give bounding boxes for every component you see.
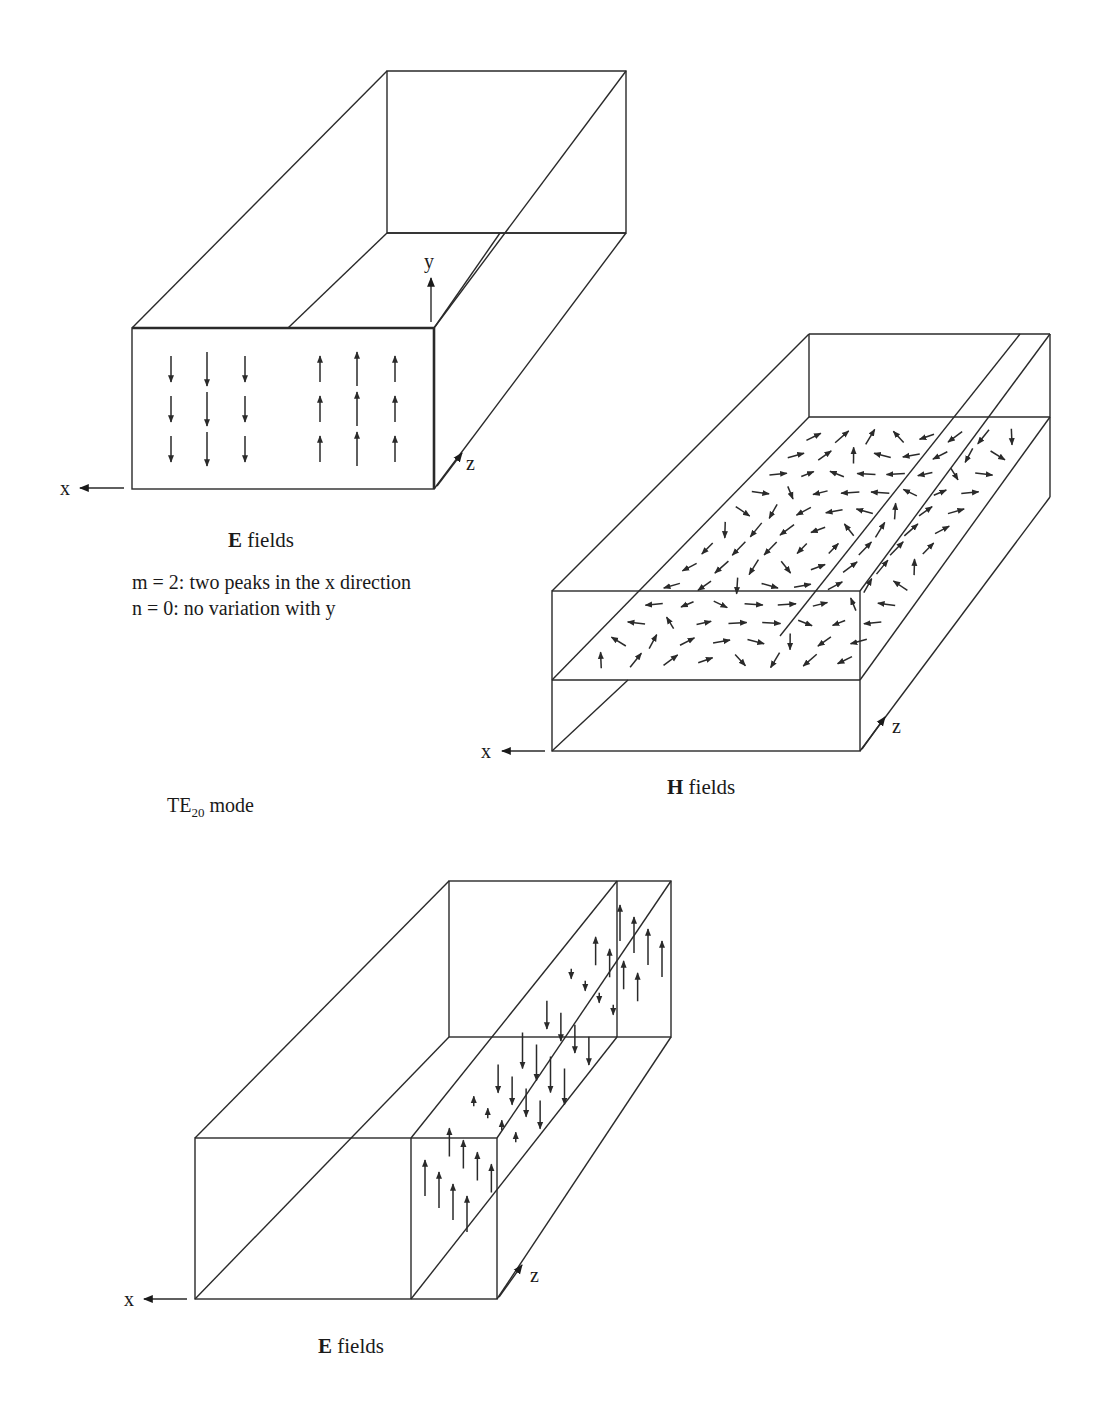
e-field-arrows-cross-section xyxy=(171,352,395,466)
field-arrow-icon xyxy=(978,430,989,444)
axis-y-icon: y xyxy=(424,250,434,322)
field-arrow-icon xyxy=(851,639,867,644)
field-arrow-icon xyxy=(813,491,828,495)
field-arrow-icon xyxy=(895,503,896,519)
field-arrow-icon xyxy=(965,448,973,462)
field-arrow-icon xyxy=(601,652,602,668)
field-arrow-icon xyxy=(961,492,978,494)
field-arrow-icon xyxy=(762,583,778,588)
field-arrow-icon xyxy=(813,603,828,607)
field-arrow-icon xyxy=(737,578,738,594)
field-arrow-icon xyxy=(781,561,790,573)
field-arrow-icon xyxy=(923,543,934,554)
field-arrow-icon xyxy=(904,524,918,536)
field-arrow-icon xyxy=(611,637,625,646)
field-arrow-icon xyxy=(769,504,777,518)
field-arrow-icon xyxy=(948,432,962,442)
field-arrow-icon xyxy=(713,640,730,643)
field-arrow-icon xyxy=(714,601,728,607)
field-arrow-icon xyxy=(728,622,746,623)
field-arrow-icon xyxy=(933,452,947,459)
field-arrow-icon xyxy=(736,507,750,516)
field-arrow-icon xyxy=(893,581,907,590)
field-arrow-icon xyxy=(935,526,949,533)
mode-label: TE20 mode xyxy=(167,794,254,821)
field-arrow-icon xyxy=(771,653,780,668)
axis-z-icon: z xyxy=(862,715,901,749)
field-arrow-icon xyxy=(667,617,674,628)
field-arrow-icon xyxy=(630,653,641,667)
field-arrow-icon xyxy=(951,468,958,479)
field-arrow-icon xyxy=(796,507,810,515)
field-arrow-icon xyxy=(764,542,777,555)
mode-note-n: n = 0: no variation with y xyxy=(132,595,335,621)
field-arrow-icon xyxy=(811,565,825,570)
field-arrow-icon xyxy=(697,621,712,624)
field-arrow-icon xyxy=(975,473,992,475)
h-field-arrows xyxy=(601,429,1012,668)
field-arrow-icon xyxy=(806,433,820,440)
field-arrow-icon xyxy=(735,655,745,666)
e-field-cross-section-box xyxy=(132,71,626,489)
field-arrow-icon xyxy=(841,492,859,493)
field-arrow-icon xyxy=(747,639,764,643)
axis-x-icon: x xyxy=(124,1288,187,1310)
field-arrow-icon xyxy=(628,622,645,624)
mode-note-m: m = 2: two peaks in the x direction xyxy=(132,569,411,595)
field-arrow-icon xyxy=(828,582,842,590)
field-arrow-icon xyxy=(818,451,831,460)
field-arrow-icon xyxy=(798,620,812,625)
field-arrow-icon xyxy=(851,598,856,611)
field-arrow-icon xyxy=(649,635,657,649)
field-arrow-icon xyxy=(948,509,964,514)
te20-diagram: y x z x z xyxy=(0,0,1105,1405)
svg-text:z: z xyxy=(466,452,475,474)
field-arrow-icon xyxy=(682,563,696,570)
field-arrow-icon xyxy=(680,638,694,645)
field-arrow-icon xyxy=(664,583,680,588)
e-fields-caption-top: E fields xyxy=(228,528,294,553)
field-arrow-icon xyxy=(702,543,713,554)
field-arrow-icon xyxy=(874,453,891,457)
field-arrow-icon xyxy=(769,473,786,475)
field-arrow-icon xyxy=(780,525,794,536)
e-fields-caption-bottom: E fields xyxy=(318,1334,384,1359)
axis-x-icon: x xyxy=(60,477,124,499)
axis-z-icon: z xyxy=(437,452,475,486)
svg-text:x: x xyxy=(60,477,70,499)
field-arrow-icon xyxy=(801,472,814,477)
svg-text:y: y xyxy=(424,250,434,273)
field-arrow-icon xyxy=(903,454,920,457)
field-arrow-icon xyxy=(803,654,817,666)
field-arrow-icon xyxy=(788,453,804,458)
e-field-longitudinal-box xyxy=(195,881,671,1299)
svg-text:z: z xyxy=(892,715,901,737)
axis-x-icon: x xyxy=(481,740,545,762)
field-arrow-icon xyxy=(745,604,763,605)
field-arrow-icon xyxy=(875,522,884,537)
field-arrow-icon xyxy=(920,434,934,439)
svg-text:x: x xyxy=(124,1288,134,1310)
field-arrow-icon xyxy=(645,603,662,605)
field-arrow-icon xyxy=(664,655,678,665)
field-arrow-icon xyxy=(857,473,875,474)
h-fields-caption: H fields xyxy=(667,775,735,800)
field-arrow-icon xyxy=(864,622,881,624)
field-arrow-icon xyxy=(778,604,796,605)
field-arrow-icon xyxy=(893,431,903,442)
field-arrow-icon xyxy=(750,523,761,537)
field-arrow-icon xyxy=(749,560,758,575)
field-arrow-icon xyxy=(698,658,712,663)
field-arrow-icon xyxy=(794,584,811,587)
field-arrow-icon xyxy=(871,492,889,493)
field-arrow-icon xyxy=(843,562,857,573)
h-field-box xyxy=(552,334,1050,751)
svg-text:z: z xyxy=(530,1264,539,1286)
field-arrow-icon xyxy=(856,509,872,514)
field-arrow-icon xyxy=(752,491,769,493)
field-arrow-icon xyxy=(715,561,729,573)
field-arrow-icon xyxy=(838,657,852,664)
field-arrow-icon xyxy=(681,602,694,607)
field-arrow-icon xyxy=(835,431,849,443)
field-arrow-icon xyxy=(698,581,711,590)
